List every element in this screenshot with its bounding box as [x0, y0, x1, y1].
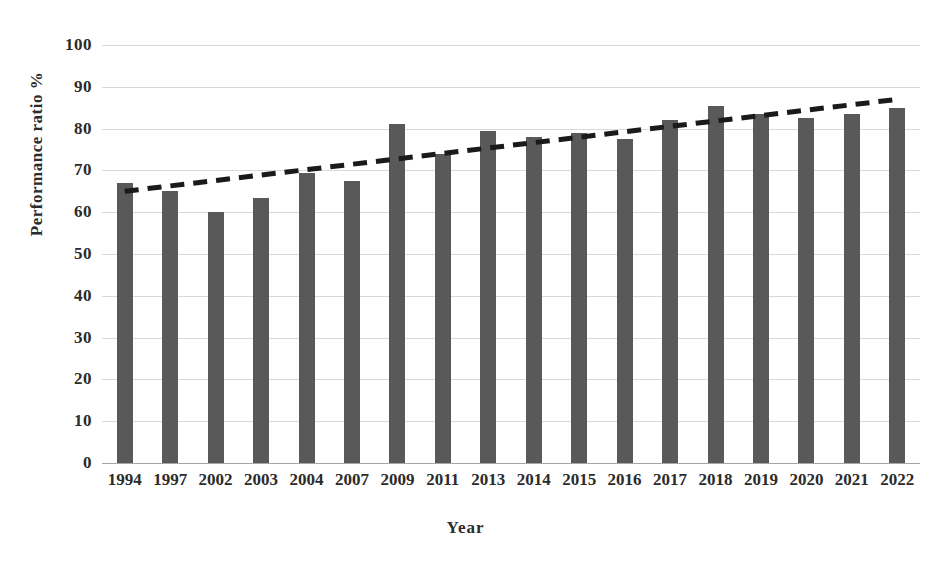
y-axis-title: Performance ratio % [27, 29, 47, 279]
bar [617, 139, 633, 463]
y-axis-tick-label: 10 [46, 411, 92, 431]
gridline [102, 421, 920, 422]
bar [117, 183, 133, 463]
bar [844, 114, 860, 463]
gridline [102, 379, 920, 380]
bar [480, 131, 496, 463]
y-axis-tick-label: 20 [46, 369, 92, 389]
y-axis-tick-label: 40 [46, 286, 92, 306]
bar [889, 108, 905, 463]
bar [526, 137, 542, 463]
bar [162, 191, 178, 463]
x-axis-tick-label: 2022 [867, 470, 927, 490]
x-axis-tick-labels: 1994199720022003200420072009201120132014… [102, 470, 920, 496]
y-axis-tick-label: 50 [46, 244, 92, 264]
y-axis-tick-label: 0 [46, 453, 92, 473]
y-axis-tick-label: 80 [46, 119, 92, 139]
bar [753, 114, 769, 463]
y-axis-tick-label: 30 [46, 328, 92, 348]
gridline [102, 45, 920, 46]
trendline-segment [125, 99, 898, 191]
bar [798, 118, 814, 463]
y-axis-tick-label: 90 [46, 77, 92, 97]
x-axis-title: Year [0, 518, 931, 538]
bar [708, 106, 724, 463]
bar [662, 120, 678, 463]
bar [208, 212, 224, 463]
bar [253, 198, 269, 463]
gridline [102, 170, 920, 171]
bar [299, 173, 315, 464]
x-axis-line [102, 463, 920, 464]
gridline [102, 129, 920, 130]
gridline [102, 296, 920, 297]
bar [389, 124, 405, 463]
bar [435, 154, 451, 463]
gridline [102, 212, 920, 213]
bar [571, 133, 587, 463]
gridline [102, 338, 920, 339]
chart-figure: 1009080706050403020100 Performance ratio… [0, 0, 931, 563]
y-axis-tick-label: 70 [46, 160, 92, 180]
y-axis-tick-label: 100 [46, 35, 92, 55]
plot-area [102, 45, 920, 463]
y-axis-tick-labels: 1009080706050403020100 [40, 45, 92, 463]
gridline [102, 254, 920, 255]
bar [344, 181, 360, 463]
gridline [102, 87, 920, 88]
y-axis-tick-label: 60 [46, 202, 92, 222]
